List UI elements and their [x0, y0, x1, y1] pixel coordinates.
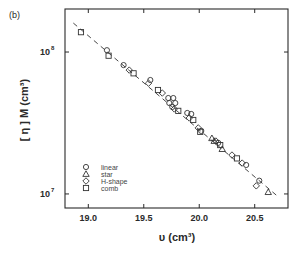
diamond-marker-icon	[145, 80, 151, 86]
square-marker-icon	[234, 156, 239, 161]
series-h-shape	[126, 67, 259, 189]
legend-item-comb: comb	[83, 185, 118, 192]
y-tick-exponent: 7	[51, 187, 55, 193]
legend-label: comb	[101, 185, 118, 192]
scatter-chart: (b) 19.019.520.020.5 107108 linearstarH-…	[0, 0, 301, 254]
x-tick-label: 19.5	[135, 213, 153, 223]
panel-label: (b)	[9, 10, 20, 20]
diamond-marker-icon	[195, 125, 201, 131]
triangle-marker-icon	[265, 189, 271, 195]
x-tick-labels: 19.019.520.020.5	[80, 213, 264, 223]
circle-marker-icon	[104, 48, 109, 53]
circle-marker-icon	[244, 162, 249, 167]
legend: linearstarH-shapecomb	[83, 164, 128, 192]
y-tick-label: 10	[40, 189, 50, 199]
x-tick-label: 20.5	[246, 213, 264, 223]
y-tick-labels: 107108	[40, 45, 55, 199]
circle-marker-icon	[166, 95, 171, 100]
x-tick-label: 20.0	[190, 213, 208, 223]
triangle-marker-icon	[219, 146, 225, 152]
legend-item-linear: linear	[83, 164, 118, 171]
legend-label: star	[101, 171, 113, 178]
square-icon	[83, 185, 88, 190]
square-marker-icon	[191, 117, 196, 122]
square-marker-icon	[78, 30, 83, 35]
triangle-icon	[83, 171, 89, 177]
legend-item-star: star	[83, 171, 114, 178]
legend-label: linear	[101, 164, 119, 171]
x-tick-label: 19.0	[80, 213, 98, 223]
x-axis-title: υ (cm³)	[159, 231, 196, 243]
y-tick-label: 10	[40, 47, 50, 57]
diamond-icon	[83, 178, 89, 184]
circle-marker-icon	[171, 95, 176, 100]
circle-icon	[83, 164, 88, 169]
y-tick-exponent: 8	[51, 45, 55, 51]
y-axis-title: [ η ] M (cm³)	[18, 79, 30, 142]
square-marker-icon	[106, 53, 111, 58]
